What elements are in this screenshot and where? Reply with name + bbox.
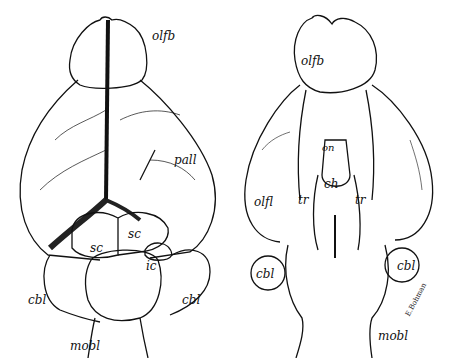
label-ic: ic bbox=[146, 260, 157, 272]
brain-illustration bbox=[0, 0, 450, 358]
label-on: on bbox=[322, 143, 334, 153]
label-sc-right: sc bbox=[128, 228, 141, 240]
label-sc-left: sc bbox=[90, 242, 103, 254]
label-cbl-dorsal-left: cbl bbox=[28, 294, 46, 306]
label-olfl: olfl bbox=[254, 196, 273, 208]
label-olfb-dorsal: olfb bbox=[152, 30, 175, 42]
label-pall: pall bbox=[174, 154, 197, 166]
label-olfb-ventral: olfb bbox=[301, 55, 324, 67]
label-cbl-ventral-left: cbl bbox=[256, 268, 274, 280]
label-mobl-ventral: mobl bbox=[378, 330, 408, 342]
label-ch: ch bbox=[324, 178, 338, 190]
label-tr-left: tr bbox=[298, 194, 309, 206]
ventral-view bbox=[245, 16, 433, 358]
label-cbl-ventral-right: cbl bbox=[397, 260, 415, 272]
label-tr-right: tr bbox=[355, 194, 366, 206]
label-mobl-dorsal: mobl bbox=[70, 340, 100, 352]
label-cbl-dorsal-right: cbl bbox=[182, 294, 200, 306]
